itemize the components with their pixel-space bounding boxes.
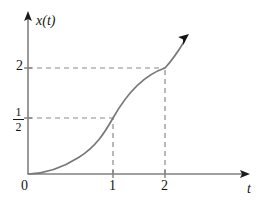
y-axis-label: x(t) xyxy=(36,14,55,28)
fraction-denominator: 2 xyxy=(15,120,23,133)
x-tick-label-two: 2 xyxy=(161,179,168,193)
fraction-numerator: 1 xyxy=(15,106,23,119)
plot-canvas xyxy=(0,0,263,203)
x-tick-label-one: 1 xyxy=(109,179,116,193)
curve-x-of-t xyxy=(28,41,185,174)
plot-figure: x(t) t 2 1 2 0 1 2 xyxy=(0,0,263,203)
curve-arrowhead xyxy=(178,34,189,45)
x-axis-label: t xyxy=(247,182,251,196)
y-tick-label-two: 2 xyxy=(16,59,23,73)
y-tick-label-half: 1 2 xyxy=(13,106,24,133)
origin-label: 0 xyxy=(21,179,28,193)
